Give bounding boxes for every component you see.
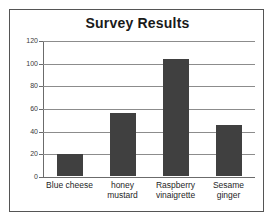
plot-area	[43, 41, 255, 177]
y-axis-tick-label: 60	[4, 105, 38, 112]
x-axis-category-label-line: ginger	[202, 190, 255, 200]
x-axis-category-label-line: vinaigrette	[149, 190, 202, 200]
y-axis-tick-mark	[39, 86, 43, 87]
x-axis-category-label-line: mustard	[96, 190, 149, 200]
x-axis-category-labels: Blue cheesehoneymustardRaspberryvinaigre…	[43, 180, 255, 216]
y-axis-tick-mark	[39, 132, 43, 133]
x-axis-category-label: Blue cheese	[43, 180, 96, 190]
bar	[110, 113, 136, 176]
y-axis-tick-mark	[39, 64, 43, 65]
y-axis-tick-label: 80	[4, 82, 38, 89]
y-axis-tick-mark	[39, 154, 43, 155]
y-axis-tick-label: 120	[4, 37, 38, 44]
x-axis-category-label: Sesameginger	[202, 180, 255, 200]
y-axis-tick-mark	[39, 177, 43, 178]
y-axis-tick-label: 100	[4, 60, 38, 67]
gridline	[43, 177, 255, 178]
y-axis-tick-mark	[39, 109, 43, 110]
bar	[216, 125, 242, 176]
y-axis-tick-labels: 020406080100120	[0, 0, 38, 222]
y-axis-tick-label: 20	[4, 150, 38, 157]
bar	[57, 154, 83, 176]
x-axis-category-label-line: honey	[96, 180, 149, 190]
y-axis-tick-label: 0	[4, 173, 38, 180]
chart-figure: Survey Results 020406080100120 Blue chee…	[0, 0, 275, 222]
bar-series	[43, 41, 255, 177]
bar	[163, 59, 189, 176]
y-axis-tick-label: 40	[4, 128, 38, 135]
x-axis-category-label-line: Raspberry	[149, 180, 202, 190]
x-axis-category-label: Raspberryvinaigrette	[149, 180, 202, 200]
x-axis-category-label: honeymustard	[96, 180, 149, 200]
chart-title: Survey Results	[10, 15, 265, 31]
x-axis-category-label-line: Blue cheese	[43, 180, 96, 190]
y-axis-tick-mark	[39, 41, 43, 42]
x-axis-category-label-line: Sesame	[202, 180, 255, 190]
